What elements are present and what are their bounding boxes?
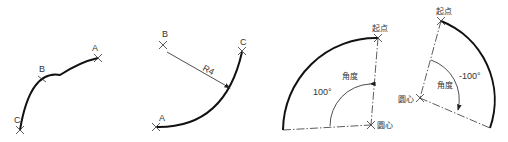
point-c-label: C (14, 115, 21, 125)
point-b-label: B (162, 29, 168, 39)
center-label: 圆心 (377, 121, 393, 130)
arc-path (157, 52, 242, 127)
angle-arrow (330, 84, 370, 126)
start-radius-line (371, 38, 378, 125)
center-cross-icon (416, 94, 424, 102)
start-cross-icon (437, 17, 445, 25)
point-a-label: A (159, 113, 165, 123)
point-a-label: A (92, 43, 98, 53)
radius-arrow (167, 52, 230, 88)
end-radius-line (283, 125, 371, 130)
radius-label: R4 (201, 63, 216, 77)
angle-label: 角度 (342, 71, 358, 81)
figure-negative-angle-arc: 起点 圆心 角度 -100° (398, 7, 495, 128)
figure-start-end-radius-arc: B C A R4 (152, 29, 247, 131)
point-b-label: B (39, 64, 45, 74)
angle-value: 100° (313, 87, 332, 97)
figure-positive-angle-arc: 起点 圆心 角度 100° (283, 24, 393, 130)
center-label: 圆心 (398, 95, 414, 104)
angle-label: 角度 (437, 80, 453, 90)
arc-diagrams: A B C B C A R4 起点 圆心 角度 1 (0, 0, 508, 142)
start-label: 起点 (372, 24, 388, 33)
point-b-cross-icon (159, 41, 167, 49)
point-c-label: C (240, 37, 247, 47)
arc-path (283, 38, 378, 130)
start-label: 起点 (436, 7, 452, 16)
arc-path (20, 58, 98, 130)
end-radius-line (420, 98, 490, 128)
angle-value: -100° (459, 71, 481, 81)
figure-three-point-arc: A B C (14, 43, 102, 134)
